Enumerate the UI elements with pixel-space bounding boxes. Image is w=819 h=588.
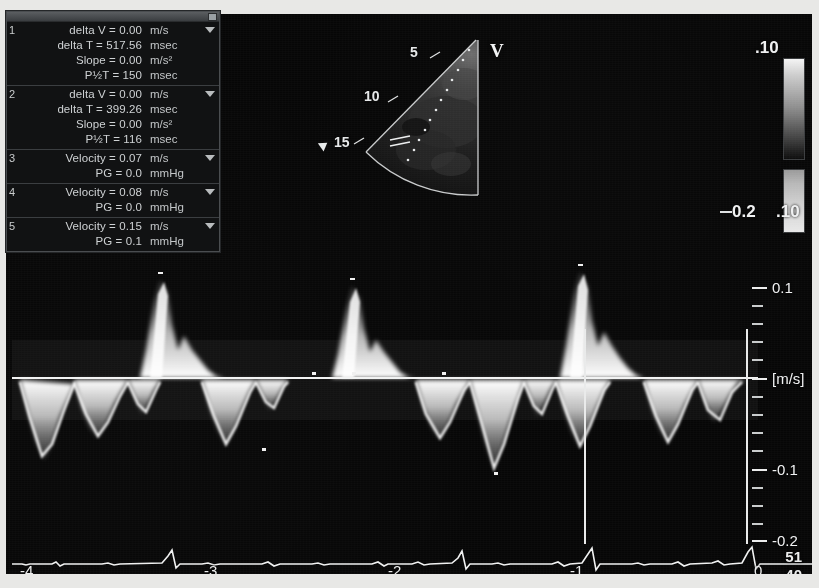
measurement-unit: msec bbox=[146, 132, 202, 147]
colorbar-upper bbox=[783, 58, 805, 160]
measurement-unit: m/s bbox=[146, 185, 202, 200]
panel-titlebar[interactable] bbox=[7, 12, 219, 22]
colorbar-lower bbox=[783, 169, 805, 233]
chevron-down-icon[interactable] bbox=[205, 155, 215, 161]
ecg-trace bbox=[12, 542, 812, 574]
measurement-label: PG = 0.0 bbox=[20, 200, 146, 215]
measurement-group[interactable]: 3 Velocity = 0.07 m/s PG = 0.0 mmHg bbox=[7, 150, 219, 184]
chevron-down-icon[interactable] bbox=[205, 223, 215, 229]
depth-marker-15: 15 bbox=[334, 134, 350, 150]
measurement-unit: mmHg bbox=[146, 166, 202, 181]
measurement-row: PG = 0.0 mmHg bbox=[7, 166, 219, 181]
measurement-unit: mmHg bbox=[146, 234, 202, 249]
measurement-row: P½T = 150 msec bbox=[7, 68, 219, 83]
measurement-label: delta T = 399.26 bbox=[20, 102, 146, 117]
measurement-unit: m/s² bbox=[146, 117, 202, 132]
time-cursor-1[interactable] bbox=[584, 329, 586, 544]
y-tick bbox=[752, 359, 763, 361]
measurement-group[interactable]: 1 delta V = 0.00 m/s delta T = 517.56 ms… bbox=[7, 22, 219, 86]
time-label--3: -3 bbox=[204, 562, 217, 574]
measurement-label: Slope = 0.00 bbox=[20, 117, 146, 132]
time-cursor-2[interactable] bbox=[746, 329, 748, 544]
time-label--2: -2 bbox=[388, 562, 401, 574]
secondary-rate-value: 40 bbox=[785, 566, 802, 574]
y-tick bbox=[752, 487, 763, 489]
measurement-row: Slope = 0.00 m/s² bbox=[7, 53, 219, 68]
measurement-row: 4 Velocity = 0.08 m/s bbox=[7, 185, 219, 200]
doppler-baseline bbox=[12, 377, 758, 379]
y-label-neg-0-1: -0.1 bbox=[772, 461, 798, 478]
measurement-unit: msec bbox=[146, 68, 202, 83]
depth-marker-10: 10 bbox=[364, 88, 380, 104]
measurement-unit: m/s bbox=[146, 219, 202, 234]
measurement-label: delta V = 0.00 bbox=[20, 87, 146, 102]
measurement-unit: msec bbox=[146, 38, 202, 53]
measurement-row: 2 delta V = 0.00 m/s bbox=[7, 87, 219, 102]
velocity-axis: 0.1 [m/s] -0.1 -0.2 bbox=[752, 232, 812, 542]
measurement-row: 3 Velocity = 0.07 m/s bbox=[7, 151, 219, 166]
y-tick bbox=[752, 323, 763, 325]
measurement-unit: m/s² bbox=[146, 53, 202, 68]
y-tick-major bbox=[752, 469, 767, 471]
y-tick-major bbox=[752, 287, 767, 289]
measurement-group[interactable]: 5 Velocity = 0.15 m/s PG = 0.1 mmHg bbox=[7, 218, 219, 251]
time-label-0: 0 bbox=[754, 562, 762, 574]
measurement-label: P½T = 150 bbox=[20, 68, 146, 83]
measurement-row: delta T = 517.56 msec bbox=[7, 38, 219, 53]
y-tick bbox=[752, 505, 763, 507]
measurement-label: delta T = 517.56 bbox=[20, 38, 146, 53]
time-label--4: -4 bbox=[20, 562, 33, 574]
measurement-label: delta V = 0.00 bbox=[20, 23, 146, 38]
measurement-row: P½T = 116 msec bbox=[7, 132, 219, 147]
doppler-spectrum bbox=[12, 232, 758, 542]
y-tick bbox=[752, 414, 763, 416]
measurement-unit: msec bbox=[146, 102, 202, 117]
measurement-row: Slope = 0.00 m/s² bbox=[7, 117, 219, 132]
measurement-index: 2 bbox=[7, 87, 20, 102]
depth-marker-5: 5 bbox=[410, 44, 418, 60]
measurement-label: Velocity = 0.15 bbox=[20, 219, 146, 234]
measurement-index: 4 bbox=[7, 185, 20, 200]
measurement-row: PG = 0.0 mmHg bbox=[7, 200, 219, 215]
chevron-down-icon[interactable] bbox=[205, 27, 215, 33]
measurement-label: PG = 0.0 bbox=[20, 166, 146, 181]
time-label--1: -1 bbox=[570, 562, 583, 574]
y-tick-major bbox=[752, 378, 767, 380]
measurement-unit: m/s bbox=[146, 87, 202, 102]
y-tick bbox=[752, 432, 763, 434]
measurement-unit: mmHg bbox=[146, 200, 202, 215]
measurement-row: PG = 0.1 mmHg bbox=[7, 234, 219, 249]
measurement-results-panel[interactable]: 1 delta V = 0.00 m/s delta T = 517.56 ms… bbox=[6, 11, 220, 252]
y-label-unit: [m/s] bbox=[772, 370, 805, 387]
measurement-label: P½T = 116 bbox=[20, 132, 146, 147]
measurement-index: 3 bbox=[7, 151, 20, 166]
measurement-group[interactable]: 2 delta V = 0.00 m/s delta T = 399.26 ms… bbox=[7, 86, 219, 150]
measurement-label: PG = 0.1 bbox=[20, 234, 146, 249]
y-tick bbox=[752, 523, 763, 525]
chevron-down-icon[interactable] bbox=[205, 189, 215, 195]
y-tick bbox=[752, 450, 763, 452]
measurement-index: 5 bbox=[7, 219, 20, 234]
measurement-label: Slope = 0.00 bbox=[20, 53, 146, 68]
panel-menu-icon[interactable] bbox=[208, 13, 217, 21]
velocity-scale-tick bbox=[720, 211, 732, 213]
y-label-0-1: 0.1 bbox=[772, 279, 793, 296]
ecg-strip bbox=[12, 542, 812, 574]
measurement-label: Velocity = 0.08 bbox=[20, 185, 146, 200]
measurement-row: delta T = 399.26 msec bbox=[7, 102, 219, 117]
measurement-group[interactable]: 4 Velocity = 0.08 m/s PG = 0.0 mmHg bbox=[7, 184, 219, 218]
colorbar-bottom-label: .10 bbox=[776, 202, 800, 222]
velocity-scale-label: 0.2 bbox=[732, 202, 756, 222]
measurement-row: 1 delta V = 0.00 m/s bbox=[7, 23, 219, 38]
colorbar-top-label: .10 bbox=[755, 38, 779, 58]
measurement-label: Velocity = 0.07 bbox=[20, 151, 146, 166]
y-tick bbox=[752, 341, 763, 343]
orientation-marker-v: V bbox=[490, 40, 504, 62]
measurement-row: 5 Velocity = 0.15 m/s bbox=[7, 219, 219, 234]
chevron-down-icon[interactable] bbox=[205, 91, 215, 97]
y-tick bbox=[752, 305, 763, 307]
y-tick bbox=[752, 396, 763, 398]
measurement-unit: m/s bbox=[146, 151, 202, 166]
heart-rate-value: 51 bbox=[785, 548, 802, 565]
measurement-index: 1 bbox=[7, 23, 20, 38]
